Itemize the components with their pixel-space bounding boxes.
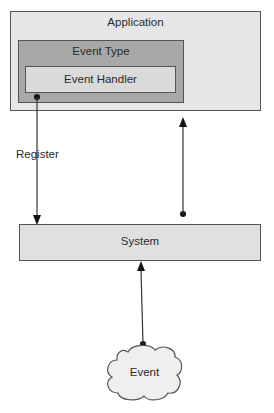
- event-label: Event: [108, 366, 181, 378]
- register-label: Register: [16, 148, 59, 160]
- connectors: [0, 0, 274, 413]
- callback-arrow: [179, 117, 187, 217]
- event-arrow: [137, 261, 146, 347]
